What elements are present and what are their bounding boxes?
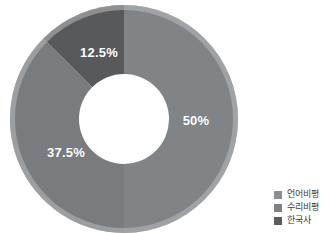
donut-svg [0,0,250,233]
legend-item-label: 언어비평 [287,190,319,199]
square-swatch-icon [274,191,282,199]
chart-plot-area: 50%37.5%12.5% [0,0,250,233]
chart-legend: 언어비평 수리비평 한국사 [274,190,319,225]
legend-item-1[interactable]: 수리비평 [274,203,319,212]
legend-item-label: 한국사 [287,216,311,225]
donut-center-hole [79,74,169,164]
donut-chart: 50%37.5%12.5% 언어비평 수리비평 한국사 [0,0,325,233]
legend-item-2[interactable]: 한국사 [274,216,311,225]
square-swatch-icon [274,217,282,225]
legend-item-0[interactable]: 언어비평 [274,190,319,199]
square-swatch-icon [274,204,282,212]
legend-item-label: 수리비평 [287,203,319,212]
